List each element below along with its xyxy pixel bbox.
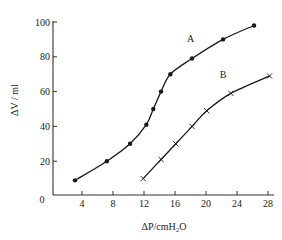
data-point-dot-icon — [105, 159, 109, 163]
x-tick-label: 4 — [80, 198, 85, 209]
data-point-cross-icon — [158, 157, 163, 162]
x-tick-label: 20 — [201, 198, 211, 209]
series-line — [75, 25, 254, 180]
y-tick-label: 20 — [40, 156, 50, 167]
data-point-dot-icon — [190, 56, 194, 60]
x-tick-label: 24 — [232, 198, 242, 209]
data-point-dot-icon — [221, 37, 225, 41]
data-point-dot-icon — [128, 142, 132, 146]
chart: 20406080100 481216202428 0 ΔV / ml ΔP/cm… — [0, 0, 282, 240]
y-tick-label: 60 — [40, 86, 50, 97]
data-point-dot-icon — [252, 23, 256, 27]
data-point-cross-icon — [267, 73, 272, 78]
y-tick-label: 80 — [40, 51, 50, 62]
series-layer: AB — [73, 23, 272, 182]
data-point-cross-icon — [173, 141, 178, 146]
data-point-dot-icon — [168, 72, 172, 76]
data-point-dot-icon — [144, 122, 148, 126]
series-b: B — [141, 69, 273, 181]
x-tick-label: 8 — [111, 198, 116, 209]
y-axis: 20406080100 — [35, 17, 57, 196]
data-point-cross-icon — [204, 108, 209, 113]
data-point-dot-icon — [151, 107, 155, 111]
x-tick-label: 12 — [139, 198, 149, 209]
x-axis-label: ΔP/cmH₂O — [142, 221, 187, 232]
y-tick-label: 40 — [40, 121, 50, 132]
data-point-cross-icon — [189, 124, 194, 129]
x-axis: 481216202428 — [53, 191, 274, 209]
x-tick-label: 28 — [263, 198, 273, 209]
data-point-cross-icon — [141, 176, 146, 181]
data-point-dot-icon — [159, 89, 163, 93]
series-a: A — [73, 23, 256, 182]
x-tick-label: 16 — [170, 198, 180, 209]
data-point-cross-icon — [228, 91, 233, 96]
y-tick-label: 100 — [35, 17, 50, 28]
origin-label: 0 — [40, 194, 45, 205]
data-point-dot-icon — [73, 178, 77, 182]
series-label-b: B — [220, 69, 227, 80]
series-label-a: A — [187, 33, 195, 44]
y-axis-label: ΔV / ml — [9, 84, 20, 116]
